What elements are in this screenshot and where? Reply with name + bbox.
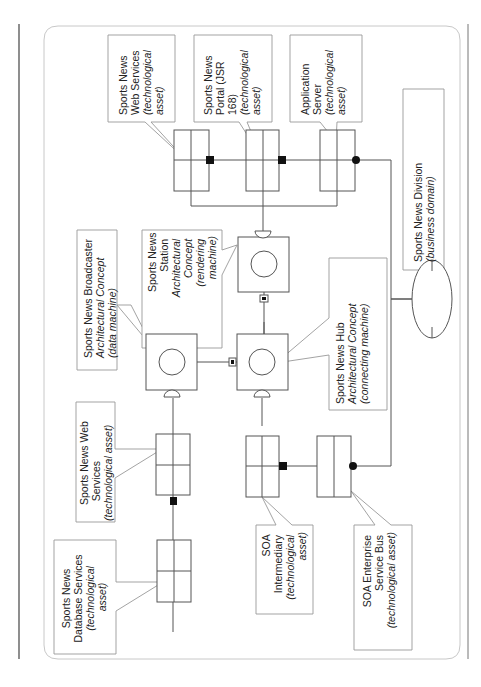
soa-esb-asset bbox=[317, 436, 351, 497]
broadcaster-socket-icon bbox=[164, 390, 180, 397]
station-machine bbox=[238, 237, 289, 292]
label-web-services-left-2: Services bbox=[90, 461, 102, 501]
database-asset bbox=[157, 540, 191, 602]
port-square-icon bbox=[206, 156, 214, 164]
port-square-icon bbox=[279, 462, 287, 470]
port-circle-icon bbox=[349, 462, 357, 470]
port-circle-icon bbox=[352, 156, 360, 164]
hub-machine bbox=[237, 334, 288, 390]
web-services-top-asset bbox=[174, 130, 209, 191]
soa-intermediary-asset bbox=[246, 436, 279, 497]
hub-socket-icon bbox=[254, 390, 270, 397]
portal-asset bbox=[246, 130, 279, 191]
label-station: Sports News bbox=[146, 232, 158, 292]
label-web-services-left: Sports News Web bbox=[78, 421, 90, 505]
web-services-left-asset bbox=[156, 434, 190, 495]
app-server-asset bbox=[320, 130, 355, 191]
callout-hub bbox=[276, 258, 387, 410]
business-domain-ellipse bbox=[412, 260, 452, 338]
architecture-diagram: Sports News Web Services (technological … bbox=[0, 0, 481, 687]
port-square-icon bbox=[170, 497, 177, 505]
port-square-icon bbox=[278, 156, 286, 164]
label-web-services-left-3: (technological asset) bbox=[102, 425, 114, 521]
broadcaster-machine bbox=[146, 334, 197, 390]
